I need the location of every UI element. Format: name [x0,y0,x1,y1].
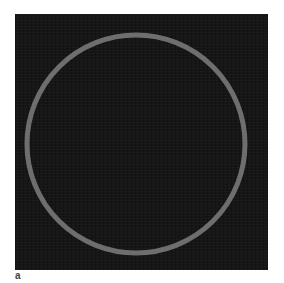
image-panel [15,14,268,270]
panel-label: a [15,270,21,282]
ring-shape [15,14,268,270]
